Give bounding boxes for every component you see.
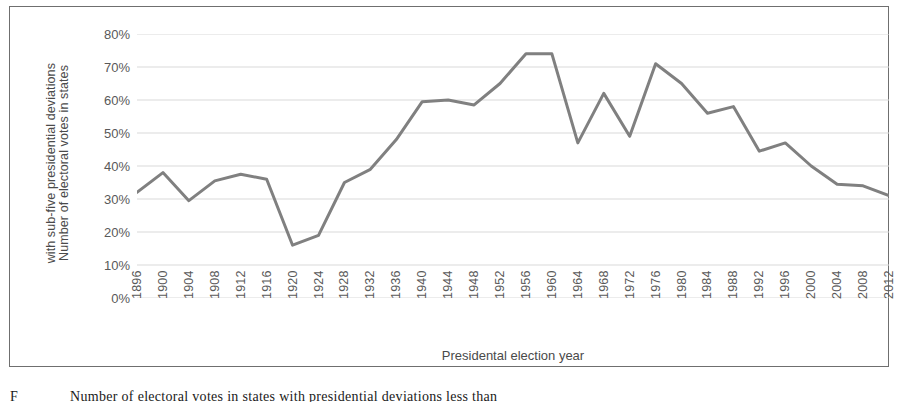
x-tick-1988: 1988 bbox=[726, 270, 740, 299]
y-axis-tick-labels: 0%10%20%30%40%50%60%70%80% bbox=[88, 7, 134, 402]
y-tick-50%: 50% bbox=[104, 126, 130, 141]
caption-text: Number of electoral votes in states with… bbox=[70, 389, 497, 402]
x-tick-1972: 1972 bbox=[623, 270, 637, 299]
x-tick-1936: 1936 bbox=[389, 270, 403, 299]
x-tick-1948: 1948 bbox=[467, 270, 481, 299]
line-chart-svg bbox=[137, 34, 889, 298]
y-tick-0%: 0% bbox=[111, 291, 130, 306]
x-tick-2000: 2000 bbox=[804, 270, 818, 299]
x-tick-1896: 1896 bbox=[130, 270, 144, 299]
x-tick-1964: 1964 bbox=[571, 270, 585, 299]
x-tick-1920: 1920 bbox=[286, 270, 300, 299]
y-tick-60%: 60% bbox=[104, 93, 130, 108]
y-tick-20%: 20% bbox=[104, 225, 130, 240]
x-axis-tick-labels: 1896190019041908191219161920192419281932… bbox=[137, 299, 889, 347]
y-tick-70%: 70% bbox=[104, 60, 130, 75]
x-tick-1980: 1980 bbox=[675, 270, 689, 299]
x-tick-1952: 1952 bbox=[493, 270, 507, 299]
x-tick-1984: 1984 bbox=[700, 270, 714, 299]
y-tick-10%: 10% bbox=[104, 258, 130, 273]
x-axis-title: Presidental election year bbox=[137, 348, 889, 363]
x-tick-2004: 2004 bbox=[830, 270, 844, 299]
x-tick-1928: 1928 bbox=[337, 270, 351, 299]
figure-caption: FNumber of electoral votes in states wit… bbox=[10, 389, 890, 402]
x-tick-1940: 1940 bbox=[415, 270, 429, 299]
figure: with sub-five presidential deviations Nu… bbox=[0, 0, 899, 402]
x-tick-1944: 1944 bbox=[441, 270, 455, 299]
y-tick-30%: 30% bbox=[104, 192, 130, 207]
x-tick-1904: 1904 bbox=[182, 270, 196, 299]
x-tick-1992: 1992 bbox=[752, 270, 766, 299]
y-tick-40%: 40% bbox=[104, 159, 130, 174]
x-tick-2012: 2012 bbox=[882, 270, 896, 299]
x-tick-1976: 1976 bbox=[649, 270, 663, 299]
x-tick-1924: 1924 bbox=[312, 270, 326, 299]
x-tick-1932: 1932 bbox=[363, 270, 377, 299]
x-tick-1956: 1956 bbox=[519, 270, 533, 299]
x-tick-1912: 1912 bbox=[234, 270, 248, 299]
x-tick-2008: 2008 bbox=[856, 270, 870, 299]
x-tick-1968: 1968 bbox=[597, 270, 611, 299]
chart-frame: with sub-five presidential deviations Nu… bbox=[9, 6, 889, 367]
x-tick-1908: 1908 bbox=[208, 270, 222, 299]
y-tick-80%: 80% bbox=[104, 27, 130, 42]
x-tick-1996: 1996 bbox=[778, 270, 792, 299]
x-tick-1900: 1900 bbox=[156, 270, 170, 299]
caption-prefix: F bbox=[10, 389, 18, 402]
plot-area bbox=[137, 34, 889, 298]
series-line-0 bbox=[137, 54, 889, 245]
data-series-group bbox=[137, 54, 889, 245]
y-axis-title-line-1: Number of electoral votes in states bbox=[58, 65, 71, 261]
gridlines bbox=[137, 34, 889, 298]
y-axis-title-line-2: with sub-five presidential deviations bbox=[45, 63, 58, 263]
x-tick-1916: 1916 bbox=[260, 270, 274, 299]
y-axis-title: with sub-five presidential deviations Nu… bbox=[28, 13, 88, 313]
x-tick-1960: 1960 bbox=[545, 270, 559, 299]
